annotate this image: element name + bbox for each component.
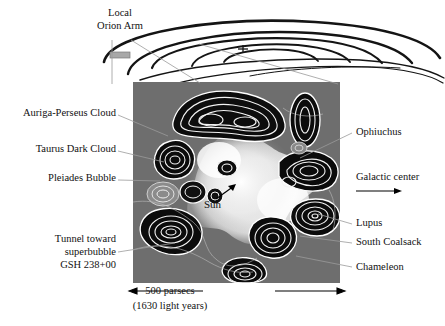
feature-south-coalsack <box>249 217 296 258</box>
feature-pleiades-bubble <box>147 182 179 206</box>
scale-bar-value-parsecs: 500 parsecs <box>105 284 235 297</box>
label-ophiuchus: Ophiuchus <box>356 125 402 138</box>
feature-taurus-dark-cloud <box>154 141 194 179</box>
feature-lupus <box>291 199 340 236</box>
label-tunnel-line3: GSH 238+00 <box>8 258 116 271</box>
feature-ophiuchus <box>279 151 338 191</box>
label-lupus: Lupus <box>356 216 382 229</box>
label-south-coalsack: South Coalsack <box>356 235 422 248</box>
label-tunnel-line1: Tunnel toward <box>8 232 116 245</box>
figure-root: Sun Auriga-Perseus Cloud Taurus Dark Clo… <box>0 0 445 326</box>
label-chameleon: Chameleon <box>356 260 404 273</box>
label-pleiades-bubble: Pleiades Bubble <box>8 171 116 184</box>
spiral-arm-inner <box>192 44 350 66</box>
label-taurus-dark-cloud: Taurus Dark Cloud <box>8 142 116 155</box>
label-auriga-perseus-cloud: Auriga-Perseus Cloud <box>8 106 116 119</box>
label-local-line1: Local <box>60 6 180 19</box>
label-orion-arm-line2: Orion Arm <box>60 19 180 32</box>
label-tunnel-line2: superbubble <box>8 245 116 258</box>
label-galactic-center: Galactic center <box>356 170 419 183</box>
spiral-arm-trailing-c <box>250 67 400 76</box>
feature-upper-right-cloud <box>290 93 320 147</box>
sun-label: Sun <box>204 198 221 211</box>
galactic-center-arrow-icon <box>356 186 406 196</box>
scale-bar-value-light-years: (1630 light years) <box>85 299 255 312</box>
local-region-highlight-box <box>110 52 130 58</box>
feature-small-cloud-center <box>217 160 237 176</box>
feature-ophiuchus-satellite <box>291 142 307 154</box>
